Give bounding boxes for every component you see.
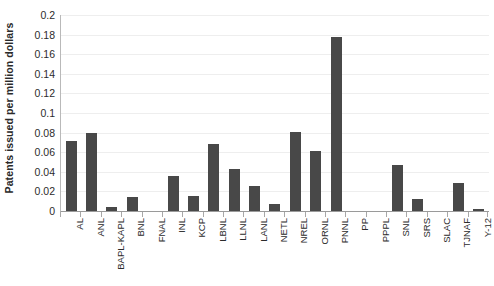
- bar-slot: [183, 15, 203, 211]
- bar-slot: [224, 15, 244, 211]
- x-label-slot: AL: [60, 218, 80, 286]
- bars-layer: [61, 15, 489, 211]
- x-tick-mark: [60, 212, 80, 217]
- bar[interactable]: [412, 199, 423, 211]
- bar-slot: [102, 15, 122, 211]
- x-tick-mark: [427, 212, 447, 217]
- bar[interactable]: [453, 183, 464, 211]
- y-tick-label: 0.02: [35, 185, 55, 197]
- x-label-slot: BAPL-KAPL: [101, 218, 121, 286]
- x-label-slot: ANL: [80, 218, 100, 286]
- x-tick-mark: [223, 212, 243, 217]
- x-tick-mark: [305, 212, 325, 217]
- y-tick-label: 0.06: [35, 146, 55, 158]
- bar-slot: [61, 15, 81, 211]
- bar[interactable]: [290, 132, 301, 211]
- x-tick-mark: [121, 212, 141, 217]
- y-axis-title: Patents issued per million dollars: [0, 0, 18, 215]
- x-label-slot: ORNL: [305, 218, 325, 286]
- bar[interactable]: [269, 204, 280, 211]
- x-label-slot: LBNL: [203, 218, 223, 286]
- bar[interactable]: [168, 176, 179, 211]
- y-tick-label: 0.14: [35, 68, 55, 80]
- x-label-slot: PP: [345, 218, 365, 286]
- y-tick-label: 0.16: [35, 48, 55, 60]
- bar-slot: [306, 15, 326, 211]
- x-label-slot: Y-12: [468, 218, 488, 286]
- x-tick-mark: [468, 212, 488, 217]
- bar-slot: [448, 15, 468, 211]
- x-label-slot: PNNL: [325, 218, 345, 286]
- x-label-slot: KCP: [182, 218, 202, 286]
- x-label-slot: PPPL: [366, 218, 386, 286]
- y-axis-title-text: Patents issued per million dollars: [3, 22, 15, 193]
- bar-slot: [346, 15, 366, 211]
- bar[interactable]: [188, 196, 199, 211]
- bar-slot: [163, 15, 183, 211]
- bar[interactable]: [66, 141, 77, 211]
- y-tick-label: 0: [49, 205, 55, 217]
- y-tick-label: 0.08: [35, 127, 55, 139]
- x-tick-mark: [345, 212, 365, 217]
- x-tick-mark: [325, 212, 345, 217]
- x-axis-category-labels: ALANLBAPL-KAPLBNLFNALINLKCPLBNLLLNLLANLN…: [60, 218, 488, 286]
- x-tick-mark: [447, 212, 467, 217]
- bar[interactable]: [331, 37, 342, 211]
- bar[interactable]: [229, 169, 240, 211]
- bar[interactable]: [106, 207, 117, 211]
- bar-slot: [285, 15, 305, 211]
- x-label-slot: TJNAF: [447, 218, 467, 286]
- bar-chart: Patents issued per million dollars 00.02…: [0, 0, 494, 286]
- plot-area: [60, 15, 489, 212]
- x-tick-mark: [101, 212, 121, 217]
- bar-slot: [469, 15, 489, 211]
- x-tick-mark: [386, 212, 406, 217]
- bar-slot: [122, 15, 142, 211]
- y-tick-label: 0.12: [35, 87, 55, 99]
- x-tick-mark: [366, 212, 386, 217]
- bar-slot: [265, 15, 285, 211]
- bar-slot: [428, 15, 448, 211]
- bar-slot: [143, 15, 163, 211]
- x-tick-mark: [406, 212, 426, 217]
- x-axis-ticks: [60, 212, 488, 217]
- x-label-slot: LLNL: [223, 218, 243, 286]
- x-tick-mark: [162, 212, 182, 217]
- x-tick-mark: [264, 212, 284, 217]
- y-tick-label: 0.1: [40, 107, 55, 119]
- bar-slot: [204, 15, 224, 211]
- y-tick-label: 0.2: [40, 9, 55, 21]
- bar[interactable]: [310, 151, 321, 211]
- y-axis-tick-labels: 00.020.040.060.080.10.120.140.160.180.2: [18, 0, 58, 220]
- bar-slot: [387, 15, 407, 211]
- bar-slot: [367, 15, 387, 211]
- bar[interactable]: [208, 144, 219, 211]
- x-label-slot: INL: [162, 218, 182, 286]
- x-label-slot: NETL: [264, 218, 284, 286]
- x-tick-mark: [182, 212, 202, 217]
- bar-slot: [244, 15, 264, 211]
- y-tick-label: 0.04: [35, 166, 55, 178]
- bar[interactable]: [473, 209, 484, 211]
- x-tick-label: Y-12: [482, 218, 493, 237]
- x-label-slot: SNL: [386, 218, 406, 286]
- bar-slot: [326, 15, 346, 211]
- x-label-slot: FNAL: [142, 218, 162, 286]
- x-label-slot: SRS: [406, 218, 426, 286]
- bar[interactable]: [392, 165, 403, 211]
- bar-slot: [81, 15, 101, 211]
- x-label-slot: BNL: [121, 218, 141, 286]
- bar-slot: [407, 15, 427, 211]
- bar[interactable]: [249, 186, 260, 211]
- x-tick-mark: [243, 212, 263, 217]
- bar[interactable]: [127, 197, 138, 211]
- x-label-slot: NREL: [284, 218, 304, 286]
- x-tick-mark: [203, 212, 223, 217]
- x-tick-mark: [284, 212, 304, 217]
- x-label-slot: LANL: [243, 218, 263, 286]
- x-tick-mark: [80, 212, 100, 217]
- y-tick-label: 0.18: [35, 29, 55, 41]
- x-tick-mark: [142, 212, 162, 217]
- bar[interactable]: [86, 133, 97, 211]
- x-label-slot: SLAC: [427, 218, 447, 286]
